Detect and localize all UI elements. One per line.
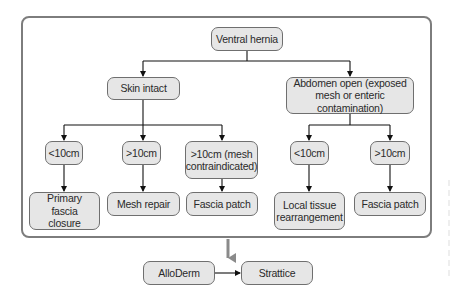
- node-mesh-repair: Mesh repair: [107, 192, 180, 216]
- node-open-gt10cm: >10cm: [370, 141, 410, 165]
- node-skin-gt10cm: >10cm: [122, 141, 161, 165]
- node-open-lt10cm: <10cm: [290, 141, 329, 165]
- page-edge-artifact: [448, 180, 450, 280]
- node-primary-fascia-closure: Primary fascia closure: [29, 192, 100, 230]
- node-skin-gt10cm-mesh-contraindicated: >10cm (mesh contraindicated): [185, 141, 258, 179]
- node-alloderm: AlloDerm: [143, 261, 215, 285]
- node-fascia-patch-2: Fascia patch: [354, 192, 426, 216]
- node-skin-intact: Skin intact: [107, 77, 180, 100]
- node-ventral-hernia: Ventral hernia: [211, 27, 283, 51]
- node-abdomen-open: Abdomen open (exposed mesh or enteric co…: [286, 77, 414, 114]
- node-strattice: Strattice: [241, 261, 313, 285]
- node-fascia-patch-1: Fascia patch: [186, 192, 258, 216]
- node-skin-lt10cm: <10cm: [45, 141, 83, 165]
- node-local-tissue-rearrangement: Local tissue rearrangement: [274, 192, 345, 230]
